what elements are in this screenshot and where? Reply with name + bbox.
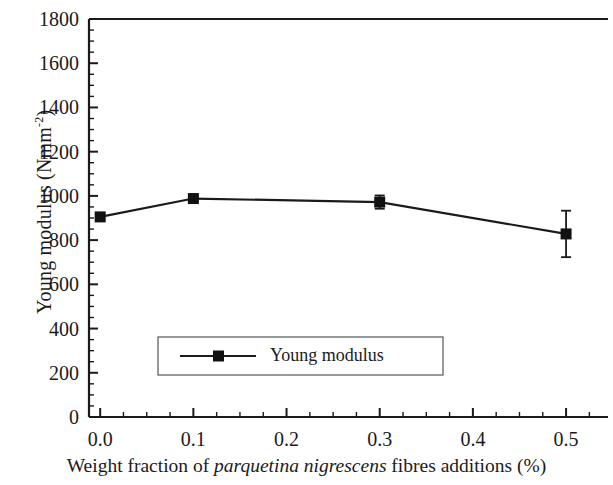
x-axis-ticks bbox=[100, 408, 589, 417]
chart-figure: Young modulus (Nmm-2) Weight fraction of… bbox=[0, 0, 613, 485]
data-markers-young-modulus bbox=[95, 193, 572, 239]
plot-area bbox=[0, 0, 613, 485]
data-line-young-modulus bbox=[100, 199, 566, 234]
legend-entry-young-modulus: Young modulus bbox=[270, 345, 384, 366]
